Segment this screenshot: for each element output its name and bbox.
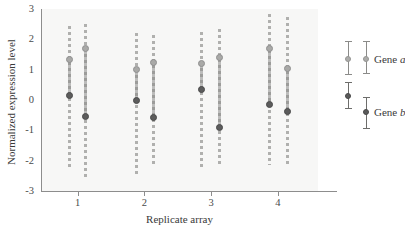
error-bar-inner-segment (68, 59, 71, 95)
legend-label-text: Gene (374, 106, 400, 118)
x-tick-label: 2 (134, 197, 154, 208)
x-tick-mark (278, 192, 279, 196)
legend-label: Gene b (374, 107, 405, 118)
data-point-marker (216, 54, 223, 61)
error-bar (200, 32, 203, 170)
error-bar-inner-segment (218, 58, 221, 128)
x-tick-mark (78, 192, 79, 196)
legend-error-bar-cap (363, 41, 370, 42)
data-point-marker (198, 86, 205, 93)
legend-marker (363, 56, 369, 62)
legend-label-gene-letter: b (400, 106, 405, 118)
x-tick-mark (211, 192, 212, 196)
x-axis-title: Replicate array (41, 213, 318, 225)
y-axis-title: Normalized expression level (5, 7, 17, 197)
x-axis-line (41, 191, 337, 192)
legend-error-bar-cap (345, 74, 352, 75)
chart-legend: Gene aGene b (340, 0, 405, 233)
legend-error-bar-cap (345, 41, 352, 42)
legend-label-gene-letter: a (400, 53, 405, 65)
data-point-marker (216, 124, 223, 131)
error-bar-inner-segment (135, 70, 138, 100)
legend-marker (345, 93, 351, 99)
x-tick-label: 1 (68, 197, 88, 208)
error-bar-inner-segment (152, 62, 155, 118)
y-axis-line (41, 9, 42, 192)
data-point-marker (150, 114, 157, 121)
legend-marker (345, 56, 351, 62)
x-tick-label: 3 (201, 197, 221, 208)
error-bar-inner-segment (286, 68, 289, 111)
legend-error-bar-cap (363, 97, 370, 98)
legend-marker (363, 109, 369, 115)
data-point-marker (133, 97, 140, 104)
legend-error-bar-cap (363, 128, 370, 129)
legend-error-bar-cap (363, 73, 370, 74)
chart-figure: 3210-1-2-3 1234 Normalized expression le… (0, 0, 405, 233)
plot-area-background (41, 9, 318, 191)
error-bar (135, 33, 138, 177)
data-point-marker (66, 56, 73, 63)
legend-error-bar-cap (345, 108, 352, 109)
data-point-marker (198, 60, 205, 67)
legend-error-bar-cap (345, 82, 352, 83)
error-bar-inner-segment (268, 48, 271, 104)
legend-label-text: Gene (374, 53, 400, 65)
x-tick-mark (144, 192, 145, 196)
x-tick-label: 4 (268, 197, 288, 208)
data-point-marker (150, 59, 157, 66)
legend-label: Gene a (374, 54, 405, 65)
error-bar-inner-segment (84, 48, 87, 116)
